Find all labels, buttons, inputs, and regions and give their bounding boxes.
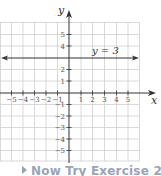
line-y-equals-3	[1, 56, 139, 61]
svg-text:−3: −3	[29, 96, 39, 104]
y-axis-label: y	[57, 4, 65, 17]
svg-text:2: 2	[90, 96, 94, 104]
svg-text:−2: −2	[55, 113, 65, 121]
svg-text:−5: −5	[6, 96, 16, 104]
svg-text:2: 2	[61, 66, 65, 74]
svg-text:−1: −1	[55, 101, 65, 109]
line-label: y = 3	[91, 45, 119, 56]
svg-text:5: 5	[126, 96, 130, 104]
svg-text:1: 1	[61, 78, 65, 86]
svg-text:−5: −5	[55, 147, 65, 155]
svg-text:3: 3	[102, 96, 106, 104]
footer-text: Now Try Exercise 23	[31, 164, 161, 176]
now-try-exercise-link[interactable]: Now Try Exercise 23	[22, 164, 161, 176]
coordinate-graph: y = 3 y x −5 −4 −3 −2 −1 1 2 3 4 5 5 4 2…	[0, 0, 161, 164]
svg-text:5: 5	[61, 31, 65, 39]
x-axis-label: x	[151, 94, 158, 107]
svg-text:−4: −4	[18, 96, 29, 104]
triangle-marker-icon	[22, 166, 27, 174]
svg-text:4: 4	[61, 43, 66, 51]
svg-text:−3: −3	[55, 124, 65, 132]
svg-text:1: 1	[79, 96, 83, 104]
svg-text:−2: −2	[41, 96, 51, 104]
svg-text:4: 4	[114, 96, 119, 104]
x-tick-labels: −5 −4 −3 −2 −1 1 2 3 4 5	[6, 96, 130, 104]
svg-text:−4: −4	[55, 136, 66, 144]
grid-lines	[0, 22, 140, 161]
